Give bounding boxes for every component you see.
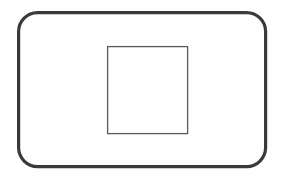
diagram-canvas <box>0 0 285 181</box>
figure-svg <box>0 0 285 181</box>
canvas-background <box>0 0 285 181</box>
